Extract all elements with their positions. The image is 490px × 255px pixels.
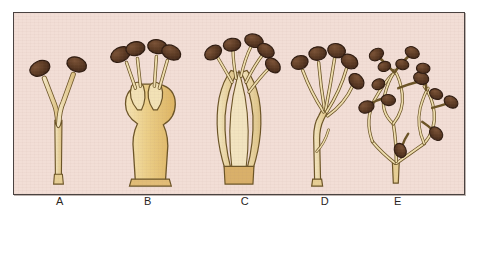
figure-label-e: E (394, 195, 402, 207)
figure-d-sporophore (289, 42, 367, 186)
figure-a-sporophore (27, 54, 88, 184)
figure-label-row: A B C D E (13, 195, 465, 229)
figure-c-base (224, 166, 254, 184)
figure-d-sporangium-2 (308, 46, 327, 61)
figure-b-stalk-4-fill (159, 60, 167, 88)
figure-b-foot (129, 179, 171, 186)
figure-c-sporophore (202, 32, 283, 184)
figure-c-filament-1-fill (217, 57, 232, 83)
figure-c-sporangium-2 (222, 37, 241, 52)
figure-e-sporangium-11 (377, 60, 392, 73)
figure-a-main-stalk (55, 120, 62, 177)
figure-e-basal-branch-left-fill (372, 142, 395, 164)
figure-e-twig-8 (402, 134, 408, 146)
figure-e-sporophore (357, 44, 460, 183)
figure-d-sporangium-5 (346, 71, 367, 92)
figure-b-sporophore (108, 38, 183, 186)
illustration-plate (13, 12, 465, 195)
figure-a-sporangium-1 (27, 57, 52, 79)
figure-c-sporangium-1 (202, 42, 225, 63)
figure-label-a: A (56, 195, 64, 207)
figure-b-stalk-1-fill (127, 62, 136, 88)
figure-a-foot (54, 174, 64, 184)
figure-label-d: D (321, 195, 329, 207)
figure-e-sporangium-7 (442, 93, 460, 110)
illustration-canvas (14, 13, 464, 194)
figure-d-sporangium-1 (289, 53, 310, 71)
figure-a-sporangium-2 (65, 54, 89, 75)
figure-label-b: B (144, 195, 152, 207)
figure-c-sheath-center (230, 70, 248, 169)
figure-e-sporangium-13 (370, 77, 386, 92)
figure-d-foot (312, 179, 323, 186)
figure-label-c: C (241, 195, 249, 207)
figure-plate-root: A B C D E (0, 0, 490, 255)
